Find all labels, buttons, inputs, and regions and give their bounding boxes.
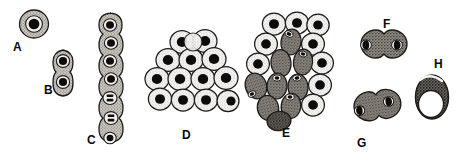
panel-label-c: C: [87, 134, 96, 146]
panel-f-dumbbell-pair-horizontal: [361, 30, 407, 58]
panel-b-two-cell-chain: [53, 50, 73, 96]
panel-label-b: B: [44, 84, 53, 96]
figure-artwork: [0, 0, 463, 163]
panel-h-vacuolated-cell: [416, 75, 449, 119]
panel-label-g: G: [357, 137, 366, 149]
panel-label-a: A: [13, 41, 22, 53]
panel-label-e: E: [282, 127, 290, 139]
cell-morphology-figure: A B C D E F G H: [0, 0, 463, 163]
panel-label-d: D: [182, 129, 191, 141]
panel-a-single-cell: [20, 10, 49, 38]
panel-label-f: F: [383, 18, 390, 30]
panel-label-h: H: [434, 58, 443, 70]
panel-c-multicell-chain: [99, 13, 123, 144]
